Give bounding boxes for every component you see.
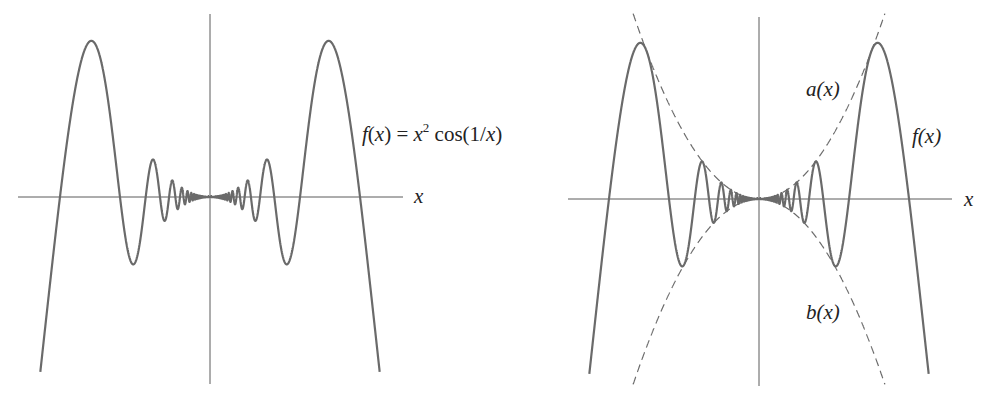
b-label: b(x) (806, 300, 840, 325)
figure-canvas (0, 0, 993, 405)
func-cos: cos(1/ (429, 122, 486, 146)
a-label: a(x) (806, 77, 840, 102)
left-x-axis-label: x (414, 184, 423, 209)
f-label: f(x) (912, 124, 941, 149)
right-x-axis-label: x (964, 187, 973, 212)
left-function-label: f(x) = x2 cos(1/x) (362, 120, 502, 147)
func-close: ) (495, 122, 502, 146)
right-plot (568, 14, 952, 386)
func-arg: (x) = x (368, 122, 423, 146)
func-var: x (486, 122, 495, 146)
left-plot (18, 14, 403, 384)
